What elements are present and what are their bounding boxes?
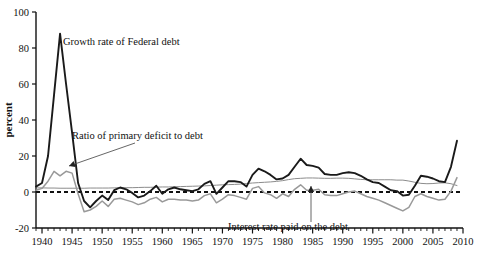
x-tick-label-2005: 2005 xyxy=(422,236,443,247)
x-tick-label-1955: 1955 xyxy=(122,236,143,247)
x-tick-label-1975: 1975 xyxy=(242,236,263,247)
y-tick-label-40: 40 xyxy=(19,115,30,126)
y-tick-label-60: 60 xyxy=(19,79,30,90)
x-tick-label-1990: 1990 xyxy=(332,236,353,247)
x-tick-label-1970: 1970 xyxy=(212,236,233,247)
x-tick-label-1965: 1965 xyxy=(182,236,203,247)
x-tick-label-1960: 1960 xyxy=(152,236,173,247)
x-tick-label-1950: 1950 xyxy=(92,236,113,247)
y-tick-label-80: 80 xyxy=(19,43,30,54)
annotation-label-growth-rate-of-federal-debt: Growth rate of Federal debt xyxy=(63,36,180,47)
annotation-label-ratio-of-primary-deficit-to-debt: Ratio of primary deficit to debt xyxy=(72,130,203,141)
x-tick-label-1940: 1940 xyxy=(32,236,53,247)
federal-debt-line-chart: -200204060801001940194519501955196019651… xyxy=(0,0,486,263)
x-tick-label-1945: 1945 xyxy=(62,236,83,247)
chart-container: -200204060801001940194519501955196019651… xyxy=(0,0,486,263)
x-tick-label-1985: 1985 xyxy=(302,236,323,247)
y-tick-label-100: 100 xyxy=(13,7,29,18)
y-tick-label--20: -20 xyxy=(15,223,29,234)
y-axis-title: percent xyxy=(2,102,14,138)
x-tick-label-1995: 1995 xyxy=(362,236,383,247)
x-tick-label-2010: 2010 xyxy=(453,236,474,247)
y-tick-label-20: 20 xyxy=(19,151,30,162)
x-tick-label-1980: 1980 xyxy=(272,236,293,247)
x-tick-label-2000: 2000 xyxy=(392,236,413,247)
y-tick-label-0: 0 xyxy=(24,187,29,198)
annotation-label-interest-rate-paid-on-the-debt: Interest rate paid on the debt xyxy=(228,221,348,232)
